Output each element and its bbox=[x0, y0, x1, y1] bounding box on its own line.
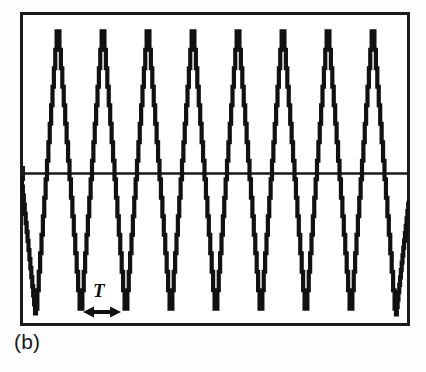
figure-panel-b: T (b) bbox=[0, 0, 426, 372]
subfigure-caption: (b) bbox=[14, 331, 40, 352]
waveform-plot bbox=[0, 0, 426, 372]
period-label: T bbox=[93, 281, 105, 300]
